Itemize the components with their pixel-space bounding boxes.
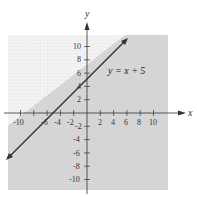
- svg-text:-10: -10: [13, 118, 24, 127]
- svg-text:8: 8: [77, 55, 81, 64]
- graph: x y -10 -6 -4 -2 2 4 6 8 10 1: [0, 0, 197, 197]
- equation-label: y = x + 5: [107, 65, 145, 76]
- svg-text:10: 10: [73, 42, 81, 51]
- svg-text:4: 4: [111, 118, 115, 127]
- svg-text:8: 8: [137, 118, 141, 127]
- plot-area: [8, 35, 168, 190]
- svg-text:-6: -6: [73, 149, 80, 158]
- svg-text:-4: -4: [73, 135, 80, 144]
- x-axis-label: x: [187, 107, 193, 118]
- svg-text:-10: -10: [69, 175, 80, 184]
- svg-text:-4: -4: [54, 118, 61, 127]
- svg-text:-2: -2: [67, 118, 74, 127]
- svg-text:2: 2: [98, 118, 102, 127]
- svg-text:10: 10: [149, 118, 157, 127]
- svg-text:6: 6: [124, 118, 128, 127]
- y-axis-label: y: [84, 8, 90, 19]
- svg-text:6: 6: [77, 69, 81, 78]
- x-axis-arrow-icon: [178, 111, 186, 116]
- svg-text:2: 2: [77, 95, 81, 104]
- y-axis-arrow-icon: [85, 22, 90, 30]
- svg-text:-8: -8: [73, 162, 80, 171]
- svg-text:-2: -2: [75, 122, 82, 131]
